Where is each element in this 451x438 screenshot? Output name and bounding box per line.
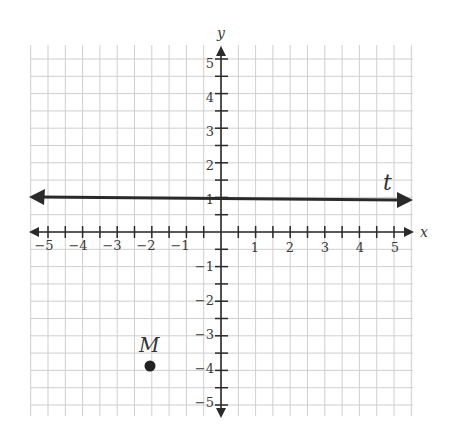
line-t-left-arrow-icon [29, 189, 45, 205]
y-axis-label: y [216, 25, 226, 41]
y-tick-label: 2 [206, 158, 214, 173]
y-tick-label: −1 [195, 259, 214, 274]
point-m-label: M [138, 333, 160, 357]
x-tick-label: 4 [356, 240, 364, 255]
point-m-marker [145, 361, 156, 372]
y-tick-label: −2 [195, 293, 214, 308]
y-tick-label: −5 [195, 395, 214, 410]
y-tick-label: −3 [195, 327, 214, 342]
x-tick-label: −3 [102, 238, 121, 253]
x-axis-right-arrow-icon [404, 227, 414, 237]
x-tick-label: 3 [321, 240, 329, 255]
tick-labels: −5 −4 −3 −2 −1 1 2 3 4 5 5 4 3 2 1 −1 −2… [34, 56, 399, 410]
y-tick-label: 5 [206, 56, 214, 71]
x-tick-label: 1 [251, 240, 259, 255]
x-axis-label: x [420, 224, 428, 240]
axes: x y [29, 25, 428, 418]
line-t-label: t [383, 170, 392, 195]
y-tick-label: 3 [206, 124, 214, 139]
line-t-right-arrow-icon [397, 192, 413, 208]
x-tick-label: 2 [286, 240, 294, 255]
y-tick-label: −4 [195, 361, 214, 376]
coordinate-plane: x y −5 −4 −3 −2 −1 1 2 3 4 5 5 4 3 2 1 −… [0, 0, 451, 438]
x-tick-label: 5 [391, 240, 399, 255]
x-tick-label: −5 [34, 238, 53, 253]
y-axis-down-arrow-icon [216, 408, 226, 418]
point-m: M [138, 333, 160, 372]
x-tick-label: −4 [68, 238, 87, 253]
x-tick-label: −2 [136, 238, 155, 253]
x-tick-label: −1 [170, 238, 189, 253]
y-axis-up-arrow-icon [216, 46, 226, 56]
y-tick-label: 4 [206, 90, 214, 105]
